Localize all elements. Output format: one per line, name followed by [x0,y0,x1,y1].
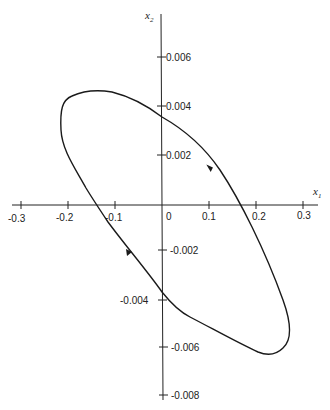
y-tick-label: -0.004 [120,295,149,306]
x-axis-label: x1 [312,185,321,200]
x-tick-label: 0.3 [297,210,311,221]
y-tick-label: -0.002 [170,245,199,256]
y-axis [161,14,163,400]
x-tick-label: 0 [166,211,172,222]
x-tick-label: -0.2 [56,212,74,223]
x-tick-label: -0.3 [8,213,26,224]
arrow-upper-right-icon [206,164,213,173]
limit-cycle-curve [61,91,290,355]
y-tick-label: 0.002 [166,150,191,161]
y-tick-label: 0.004 [166,101,191,112]
y-tick-label: -0.008 [171,390,200,401]
y-axis-label: x2 [144,9,154,24]
y-tick-label: 0.006 [166,52,191,63]
y-tick-label: -0.006 [171,342,200,353]
phase-plane-chart: -0.3 -0.2 -0.1 0 0.1 0.2 0.3 0.006 0.004… [0,0,330,410]
x-tick-label: 0.2 [252,211,266,222]
x-tick-label: 0.1 [202,211,216,222]
